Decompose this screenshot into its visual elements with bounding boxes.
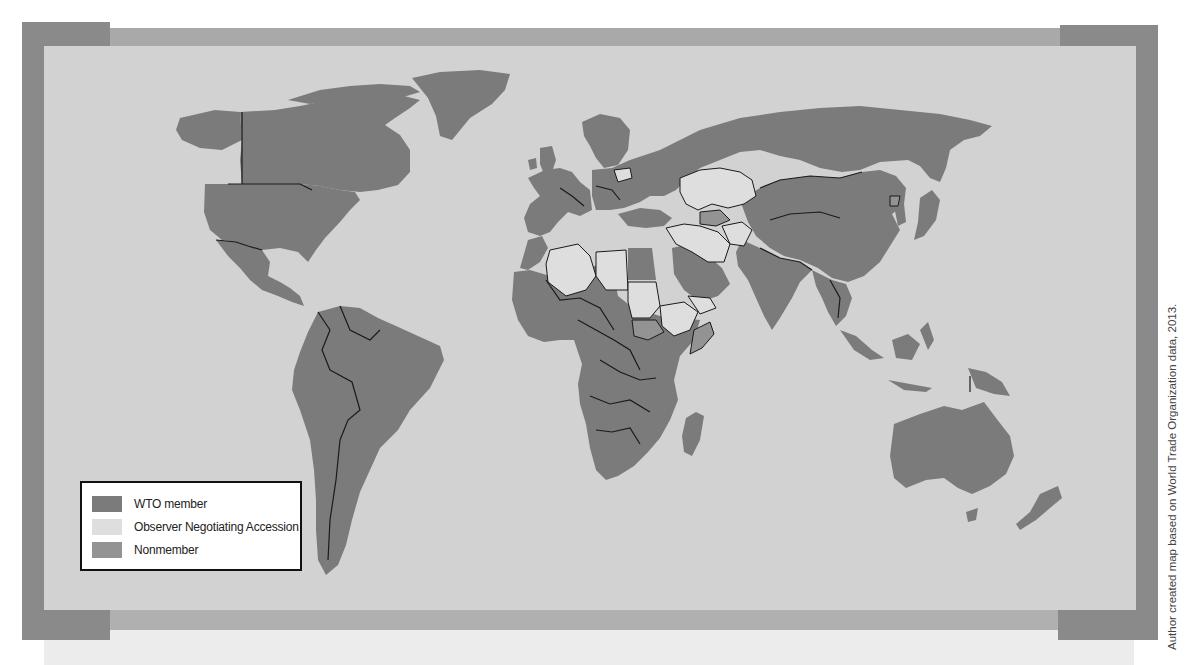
- frame-corner-top-right: [1060, 25, 1158, 48]
- frame-top-bar: [110, 28, 1060, 46]
- legend-label: WTO member: [134, 497, 207, 511]
- legend-swatch-observer: [92, 519, 122, 535]
- map-legend: WTO member Observer Negotiating Accessio…: [80, 481, 302, 571]
- legend-item-wto-member: WTO member: [92, 495, 207, 513]
- legend-swatch-wto-member: [92, 496, 122, 512]
- frame-bottom-bar: [110, 610, 1060, 630]
- source-credit: Author created map based on World Trade …: [1166, 304, 1178, 650]
- legend-label: Nonmember: [134, 543, 198, 557]
- frame-corner-bottom-left: [22, 609, 110, 640]
- frame-left-bar: [22, 22, 44, 640]
- legend-item-observer: Observer Negotiating Accession: [92, 518, 299, 536]
- legend-item-nonmember: Nonmember: [92, 541, 198, 559]
- wto-member-regions: [176, 70, 1062, 575]
- frame-right-bar: [1136, 25, 1158, 640]
- frame-bottom-strip: [44, 630, 1134, 665]
- legend-swatch-nonmember: [92, 542, 122, 558]
- legend-label: Observer Negotiating Accession: [134, 520, 299, 534]
- frame-corner-top-left: [22, 22, 110, 46]
- frame-corner-bottom-right: [1058, 609, 1158, 640]
